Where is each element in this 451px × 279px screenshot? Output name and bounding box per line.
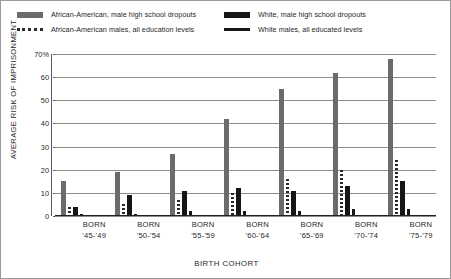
bar <box>236 188 241 216</box>
x-tick-label: BORN'45-'49 <box>67 220 121 241</box>
legend-label: African-American, male high school dropo… <box>51 10 196 19</box>
y-tick-label: 60 <box>23 73 49 82</box>
bar <box>127 195 132 216</box>
bar-group <box>218 54 272 216</box>
y-axis-line <box>51 54 52 216</box>
bar-group <box>164 54 218 216</box>
x-tick-label-line1: BORN <box>355 220 378 229</box>
bar-group <box>55 54 109 216</box>
bar-group <box>109 54 163 216</box>
bar <box>279 89 284 216</box>
legend-item-white-all-education: White males, all educated levels <box>224 25 362 34</box>
legend-label: White, male high school dropouts <box>258 10 366 19</box>
legend-swatch-dotted-line-icon <box>17 28 43 31</box>
bar <box>177 200 180 216</box>
bar <box>286 179 289 216</box>
x-tick-label-line1: BORN <box>137 220 160 229</box>
bar <box>291 191 296 216</box>
x-tick-label-line2: '70-'74 <box>339 231 393 242</box>
bar <box>400 181 405 216</box>
y-tick-label: 50 <box>23 96 49 105</box>
legend-item-aa-dropouts: African-American, male high school dropo… <box>17 10 196 19</box>
y-tick-label: 0 <box>23 212 49 221</box>
legend-item-aa-all-education: African-American males, all education le… <box>17 25 194 34</box>
y-tick-label: 20 <box>23 165 49 174</box>
x-axis-labels: BORN'45-'49BORN'50-'54BORN'55-'59BORN'60… <box>55 220 436 250</box>
x-tick-label-line1: BORN <box>409 220 432 229</box>
x-tick-label-line2: '60-'64 <box>231 231 285 242</box>
bar <box>345 186 350 216</box>
gridline <box>55 216 436 217</box>
x-tick-label: BORN'65-'69 <box>285 220 339 241</box>
x-tick-label-line1: BORN <box>301 220 324 229</box>
legend-item-white-dropouts: White, male high school dropouts <box>224 10 366 19</box>
legend-label: White males, all educated levels <box>258 25 362 34</box>
x-tick-label-line2: '50-'54 <box>122 231 176 242</box>
y-tick-label: 40 <box>23 119 49 128</box>
bar <box>61 181 66 216</box>
x-axis-baseline <box>55 215 436 216</box>
chart-legend: African-American, male high school dropo… <box>17 10 437 40</box>
y-tick-label: 30 <box>23 142 49 151</box>
y-axis-title: AVERAGE RISK OF IMPRISONMENT <box>9 15 18 165</box>
bar <box>340 170 343 216</box>
x-tick-label-line2: '75-'79 <box>394 231 448 242</box>
x-tick-label-line2: '45-'49 <box>67 231 121 242</box>
x-tick-label-line2: '65-'69 <box>285 231 339 242</box>
x-tick-label-line1: BORN <box>246 220 269 229</box>
chart-figure: African-American, male high school dropo… <box>0 0 451 279</box>
x-tick-label-line1: BORN <box>192 220 215 229</box>
bar <box>182 191 187 216</box>
bar-group <box>382 54 436 216</box>
x-tick-label: BORN'60-'64 <box>231 220 285 241</box>
legend-label: African-American males, all education le… <box>51 25 194 34</box>
bar-group <box>327 54 381 216</box>
x-tick-label: BORN'75-'79 <box>394 220 448 241</box>
x-tick-label: BORN'55-'59 <box>176 220 230 241</box>
legend-swatch-filled-bar-icon <box>224 12 250 18</box>
bar <box>115 172 120 216</box>
x-tick-label: BORN'50-'54 <box>122 220 176 241</box>
x-tick-label: BORN'70-'74 <box>339 220 393 241</box>
bar <box>395 160 398 216</box>
y-tick-label: 10 <box>23 188 49 197</box>
x-tick-label-line1: BORN <box>83 220 106 229</box>
bar <box>231 193 234 216</box>
plot-area <box>55 54 436 216</box>
bar <box>170 154 175 216</box>
legend-swatch-filled-bar-icon <box>17 12 43 18</box>
bar <box>224 119 229 216</box>
bar <box>333 73 338 216</box>
x-tick-label-line2: '55-'59 <box>176 231 230 242</box>
x-axis-title: BIRTH COHORT <box>1 259 451 268</box>
y-tick-label: 70% <box>23 50 49 59</box>
bar-group <box>273 54 327 216</box>
y-axis-ticks: 010203040506070% <box>19 54 49 216</box>
legend-swatch-solid-line-icon <box>224 28 250 31</box>
bar <box>388 59 393 216</box>
